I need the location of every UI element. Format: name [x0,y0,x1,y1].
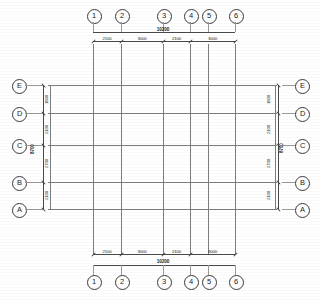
grid-bubble-column-3-top[interactable]: 3 [157,9,172,24]
left-overall-dimension-label: 8700 [30,138,35,160]
top-dimension-1-2: 2100 [93,36,121,41]
bottom-dimension-1-2: 2100 [93,249,121,254]
grid-bubble-column-4-top[interactable]: 4 [184,9,199,24]
grid-bubble-row-C-right[interactable]: C [295,139,310,154]
grid-bubble-row-A-left[interactable]: A [12,203,27,218]
grid-bubble-column-5-top[interactable]: 5 [202,9,217,24]
bubble-leader-4-bottom [190,265,191,275]
bottom-dimension-2-3: 3000 [121,249,163,254]
left-dimension-E-D: 1800 [44,85,49,113]
left-dimension-B-A: 2100 [44,182,49,209]
bubble-leader-A-right [282,209,295,210]
bubble-leader-6-top [235,22,236,32]
grid-bubble-row-D-right[interactable]: D [295,107,310,122]
bubble-leader-D-left [25,113,43,114]
bubble-leader-B-right [282,182,295,183]
grid-bubble-row-D-left[interactable]: D [12,107,27,122]
bubble-leader-2-top [121,22,122,32]
right-dimension-C-B: 2700 [266,145,271,182]
bubble-leader-4-top [190,22,191,32]
grid-bubble-column-1-top[interactable]: 1 [87,9,102,24]
grid-bubble-row-C-left[interactable]: C [12,139,27,154]
grid-bubble-column-2-bottom[interactable]: 2 [115,275,130,290]
top-dimension-2-3: 3000 [121,36,163,41]
grid-bubble-column-6-bottom[interactable]: 6 [229,275,244,290]
bubble-leader-B-left [25,182,43,183]
grid-bubble-row-B-right[interactable]: B [295,176,310,191]
bubble-leader-1-bottom [93,265,94,275]
grid-bubble-row-E-right[interactable]: E [295,79,310,94]
grid-line-column-6 [235,44,236,254]
right-dimension-E-D: 1800 [266,85,271,113]
right-dimension-D-C: 2100 [266,113,271,145]
grid-bubble-column-2-top[interactable]: 2 [115,9,130,24]
bubble-leader-5-top [208,22,209,32]
left-dimension-D-C: 2100 [44,113,49,145]
grid-bubble-row-A-right[interactable]: A [295,203,310,218]
grid-line-column-edge-left [50,85,51,209]
top-dimension-4-6: 3000 [190,36,235,41]
bottom-overall-dimension-line [93,265,235,266]
grid-bubble-column-6-top[interactable]: 6 [229,9,244,24]
bubble-leader-E-right [282,85,295,86]
bubble-leader-3-bottom [163,265,164,275]
grid-bubble-column-3-bottom[interactable]: 3 [157,275,172,290]
grid-line-column-5 [208,44,209,254]
bubble-leader-6-bottom [235,265,236,275]
grid-line-column-1 [93,44,94,254]
right-dimension-B-A: 2100 [266,182,271,209]
drawing-sheet: 1 2 3 4 5 6 10200 2100 3000 2100 3000 E … [0,0,320,300]
bubble-leader-5-bottom [208,265,209,275]
bubble-leader-E-left [25,85,43,86]
grid-bubble-row-E-left[interactable]: E [12,79,27,94]
top-dimension-3-4: 2100 [163,36,190,41]
grid-line-column-3 [163,44,164,254]
bottom-overall-dimension-label: 10200 [143,259,183,264]
grid-line-column-edge-right [275,85,276,209]
left-dimension-C-B: 2700 [44,145,49,182]
bubble-leader-1-top [93,22,94,32]
grid-bubble-column-4-bottom[interactable]: 4 [184,275,199,290]
bubble-leader-A-left [25,209,43,210]
bottom-dimension-3-4: 2100 [163,249,190,254]
top-overall-dimension-label: 10200 [143,27,183,32]
grid-bubble-column-5-bottom[interactable]: 5 [202,275,217,290]
top-overall-dimension-line [93,32,235,33]
bubble-leader-D-right [282,113,295,114]
bottom-dimension-4-6: 3000 [190,249,235,254]
grid-line-column-4 [190,44,191,254]
right-overall-dimension-label: 8700 [279,136,284,160]
grid-line-column-2 [121,44,122,254]
bubble-leader-2-bottom [121,265,122,275]
grid-bubble-row-B-left[interactable]: B [12,176,27,191]
grid-bubble-column-1-bottom[interactable]: 1 [87,275,102,290]
